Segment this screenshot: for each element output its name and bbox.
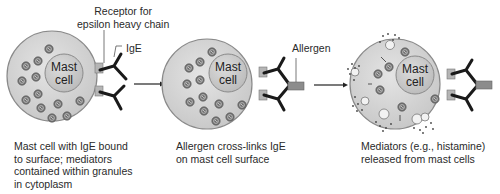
allergen bbox=[288, 82, 304, 90]
caption-panel-3: Mediators (e.g., histamine) released fro… bbox=[361, 140, 485, 165]
cell-label-2-line2: cell bbox=[219, 73, 237, 87]
allergen-annotation: Allergen bbox=[292, 42, 331, 55]
ige-antibody bbox=[264, 58, 289, 110]
cell-label-3-line2: cell bbox=[406, 75, 424, 89]
ige-antibody bbox=[452, 60, 477, 110]
cell-label-1-line2: cell bbox=[55, 73, 73, 87]
allergen bbox=[476, 81, 492, 89]
arrow-right-icon bbox=[134, 82, 165, 87]
receptor-annotation: Receptor for epsilon heavy chain bbox=[77, 5, 169, 30]
cell-label-2-line1: Mast bbox=[215, 60, 242, 74]
cell-label-3-line1: Mast bbox=[402, 62, 429, 76]
caption-panel-2: Allergen cross-links IgE on mast cell su… bbox=[176, 140, 286, 165]
caption-panel-1: Mast cell with IgE bound to surface; med… bbox=[14, 140, 133, 190]
cell-label-1-line1: Mast bbox=[51, 60, 78, 74]
ige-antibody bbox=[100, 86, 124, 109]
arrow-right-icon bbox=[314, 83, 348, 88]
ige-annotation: IgE bbox=[126, 42, 142, 55]
